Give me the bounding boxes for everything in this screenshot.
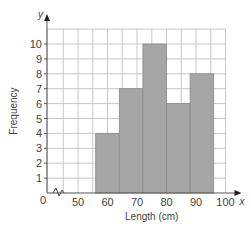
histogram-chart: 1234567891050607080901000Length (cm)Freq… [0, 0, 251, 235]
x-tick-label: 80 [160, 196, 172, 208]
y-tick-label: 4 [36, 127, 42, 139]
axis-break-icon [53, 188, 64, 196]
y-tick-label: 9 [36, 53, 42, 65]
y-axis-label: Frequency [8, 87, 19, 134]
y-axis-letter: y [37, 9, 44, 20]
y-tick-label: 5 [36, 113, 42, 125]
y-tick-label: 1 [36, 172, 42, 184]
y-tick-label: 10 [30, 38, 42, 50]
y-tick-label: 2 [36, 157, 42, 169]
x-tick-label: 60 [101, 196, 113, 208]
histogram-bar [190, 74, 214, 193]
x-axis-label: Length (cm) [125, 211, 178, 222]
histogram-bar [167, 104, 191, 193]
y-tick-label: 7 [36, 83, 42, 95]
histogram-bar [96, 133, 120, 193]
x-tick-label: 50 [72, 196, 84, 208]
x-axis-letter: x [239, 196, 246, 207]
histogram-bar [119, 89, 143, 193]
x-tick-label: 100 [216, 196, 234, 208]
x-tick-label: 70 [131, 196, 143, 208]
x-tick-label: 90 [190, 196, 202, 208]
y-tick-label: 8 [36, 68, 42, 80]
y-tick-label: 3 [36, 142, 42, 154]
histogram-bar [143, 44, 167, 193]
y-tick-label: 6 [36, 98, 42, 110]
y-axis-arrow-icon [44, 14, 50, 21]
origin-label: 0 [40, 194, 46, 206]
